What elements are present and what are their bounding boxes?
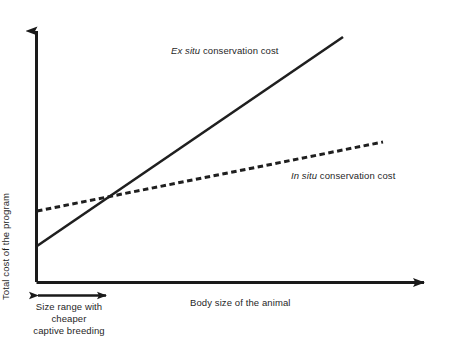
y-axis-label-text: Total cost of the program [0, 140, 12, 300]
series-label-ex-situ-italic: Ex situ [171, 45, 200, 56]
series-line-ex-situ [37, 37, 343, 246]
series-label-ex-situ: Ex situ conservation cost [171, 45, 279, 57]
series-label-in-situ-italic: In situ [291, 170, 317, 181]
chart-figure: Ex situ conservation cost In situ conser… [0, 0, 456, 360]
series-label-in-situ: In situ conservation cost [291, 170, 395, 182]
annotation-size-range-line2: cheaper [8, 313, 130, 325]
annotation-size-range-line3: captive breeding [8, 325, 130, 337]
series-label-in-situ-regular: conservation cost [317, 170, 395, 181]
annotation-size-range-line1: Size range with [8, 301, 130, 313]
annotation-size-range: Size range with cheaper captive breeding [8, 301, 130, 337]
x-axis-label: Body size of the animal [190, 297, 291, 309]
y-axis-label: Total cost of the program [0, 140, 12, 300]
series-label-ex-situ-regular: conservation cost [200, 45, 278, 56]
